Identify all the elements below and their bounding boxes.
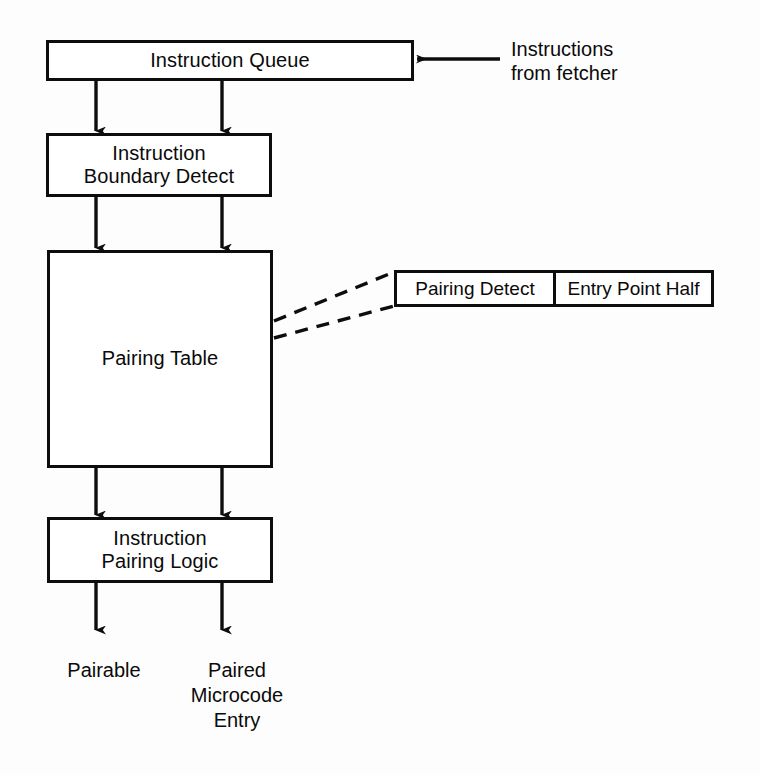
callout-leader-upper xyxy=(274,272,394,321)
node-instruction-boundary-detect[interactable]: Instruction Boundary Detect xyxy=(46,133,272,197)
callout-field-pairing-detect: Pairing Detect xyxy=(397,273,556,304)
callout-field-entry-point-half: Entry Point Half xyxy=(556,273,711,304)
instruction-pairing-diagram: Instruction Queue Instruction Boundary D… xyxy=(0,0,760,775)
node-instruction-queue[interactable]: Instruction Queue xyxy=(46,40,414,81)
node-instruction-queue-label: Instruction Queue xyxy=(144,49,316,72)
output-label-paired-microcode-entry: Paired Microcode Entry xyxy=(191,658,283,733)
node-instruction-pairing-logic[interactable]: Instruction Pairing Logic xyxy=(47,517,273,583)
node-pairing-table-label: Pairing Table xyxy=(96,347,225,370)
node-instruction-pairing-logic-label: Instruction Pairing Logic xyxy=(96,527,225,573)
annotation-instructions-from-fetcher: Instructions from fetcher xyxy=(511,37,618,86)
output-label-pairable: Pairable xyxy=(67,658,140,683)
node-instruction-boundary-detect-label: Instruction Boundary Detect xyxy=(78,142,240,188)
callout-field-pairing-detect-label: Pairing Detect xyxy=(415,278,534,300)
callout-field-entry-point-half-label: Entry Point Half xyxy=(568,278,700,300)
node-pairing-table[interactable]: Pairing Table xyxy=(47,250,273,468)
pairing-table-entry-callout[interactable]: Pairing Detect Entry Point Half xyxy=(394,270,714,307)
callout-leader-lower xyxy=(274,306,394,338)
